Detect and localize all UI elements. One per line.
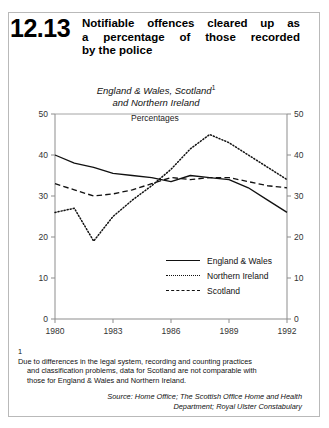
footnote-number: 1 xyxy=(18,347,26,357)
legend-label-scotland: Scotland xyxy=(207,286,240,296)
legend-label-northern-ireland: Northern Ireland xyxy=(207,271,268,281)
title-line-1: Notifiable offences cleared up as xyxy=(82,17,300,31)
chart-number: 12.13 xyxy=(10,14,82,42)
source-note: Source: Home Office; The Scottish Office… xyxy=(90,392,302,411)
footnote-body: Due to differences in the legal system, … xyxy=(18,357,298,386)
footnote-line-2: and classification problems, data for Sc… xyxy=(27,366,298,376)
subtitle-footnote-marker: 1 xyxy=(212,84,216,91)
title-line-3: by the police xyxy=(82,44,300,58)
title-line-2: a percentage of those recorded xyxy=(82,31,300,45)
legend-key-dotted-icon xyxy=(166,271,200,281)
chart-page: 12.13 Notifiable offences cleared up as … xyxy=(0,0,329,428)
footnote: 1 Due to differences in the legal system… xyxy=(18,347,298,385)
source-line-2: Department; Royal Ulster Constabulary xyxy=(90,402,302,412)
legend-key-dashed-icon xyxy=(166,286,200,296)
subtitle-line-1: England & Wales, Scotland xyxy=(97,85,212,96)
footnote-line-1: Due to differences in the legal system, … xyxy=(18,357,298,367)
chart-legend: England & Wales Northern Ireland Scotlan… xyxy=(166,253,272,298)
legend-label-england-wales: England & Wales xyxy=(207,256,272,266)
subtitle-line-2: and Northern Ireland xyxy=(112,97,199,108)
legend-item-england-wales: England & Wales xyxy=(166,253,272,268)
percentages-label: Percentages xyxy=(131,113,179,123)
legend-item-northern-ireland: Northern Ireland xyxy=(166,268,272,283)
chart-subtitle: England & Wales, Scotland1 and Northern … xyxy=(0,82,312,108)
source-line-1: Source: Home Office; The Scottish Office… xyxy=(90,392,302,402)
page-title: Notifiable offences cleared up as a perc… xyxy=(82,14,300,58)
chart-header: 12.13 Notifiable offences cleared up as … xyxy=(10,14,315,58)
legend-item-scotland: Scotland xyxy=(166,283,272,298)
legend-key-solid-icon xyxy=(166,256,200,266)
footnote-line-3: those for England & Wales and Northern I… xyxy=(27,376,298,386)
